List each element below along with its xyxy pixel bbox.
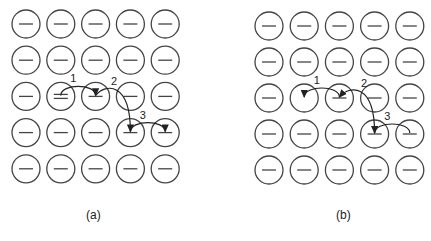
lattice-site: [116, 155, 144, 183]
lattice-site: [12, 155, 40, 183]
lattice-site: [325, 156, 353, 184]
lattice-site: [47, 10, 75, 38]
lattice-site: [12, 46, 40, 74]
lattice-site: [82, 10, 110, 38]
lattice-site: [255, 12, 283, 40]
diffusion-diagram: 123 123: [0, 0, 431, 241]
lattice-site: [82, 119, 110, 147]
jump-step-label: 1: [314, 74, 320, 86]
lattice-site: [151, 46, 179, 74]
lattice-site: [290, 120, 318, 148]
lattice-site: [116, 82, 144, 110]
jump-step-label: 2: [361, 77, 367, 89]
jump-arrow: [130, 123, 165, 132]
lattice-site: [151, 155, 179, 183]
jump-step-label: 3: [140, 109, 146, 121]
panel-a-lattice: 123: [12, 10, 179, 183]
lattice-site: [116, 46, 144, 74]
panel-b-lattice: 123: [255, 12, 424, 184]
lattice-site: [396, 156, 424, 184]
jump-arrow: [304, 88, 339, 97]
jump-arrow: [375, 124, 410, 133]
lattice-site: [151, 82, 179, 110]
lattice-site: [290, 12, 318, 40]
lattice-site: [290, 156, 318, 184]
panel-b-caption: (b): [336, 208, 351, 222]
lattice-site: [12, 10, 40, 38]
lattice-site: [82, 46, 110, 74]
lattice-site: [47, 119, 75, 147]
lattice-site: [325, 120, 353, 148]
lattice-site: [255, 84, 283, 112]
jump-step-label: 3: [384, 110, 390, 122]
lattice-site: [116, 10, 144, 38]
lattice-site: [12, 82, 40, 110]
lattice-site: [361, 48, 389, 76]
lattice-site: [396, 48, 424, 76]
lattice-site: [361, 12, 389, 40]
jump-step-label: 2: [111, 75, 117, 87]
jump-step-label: 1: [70, 72, 76, 84]
panel-a-caption: (a): [86, 208, 101, 222]
lattice-site: [12, 119, 40, 147]
lattice-site: [325, 48, 353, 76]
lattice-site: [47, 155, 75, 183]
lattice-site: [290, 48, 318, 76]
lattice-site: [255, 48, 283, 76]
lattice-site: [82, 155, 110, 183]
lattice-site: [396, 12, 424, 40]
lattice-site: [151, 10, 179, 38]
lattice-site: [47, 46, 75, 74]
lattice-site: [396, 84, 424, 112]
lattice-site: [255, 156, 283, 184]
lattice-site: [361, 156, 389, 184]
lattice-site: [325, 12, 353, 40]
lattice-site: [255, 120, 283, 148]
